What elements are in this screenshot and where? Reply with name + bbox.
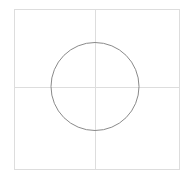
diagram-canvas <box>0 0 191 182</box>
square-frame <box>15 10 180 170</box>
